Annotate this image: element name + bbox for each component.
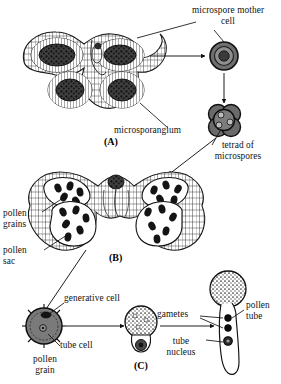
pollen-sac-lower-right (136, 202, 182, 246)
panel-label-b: (B) (109, 252, 122, 263)
gamete-nucleus-1 (225, 315, 232, 322)
label-microspore-mother-cell: microspore mothercell (178, 5, 278, 26)
figure-canvas: microspore mothercell microsporangium (A… (0, 0, 281, 384)
label-microsporangium: microsporangium (114, 125, 181, 136)
pollen-tube-structure (210, 271, 246, 374)
pollen-sac-lower-left (50, 202, 96, 246)
microsporogenesis-diagram (0, 0, 281, 384)
label-pollen-sac: pollensac (3, 245, 49, 266)
label-pollen-grains: pollengrains (3, 208, 49, 229)
microsporangium-lower-right (100, 72, 144, 108)
label-pollen-tube: pollentube (246, 300, 281, 321)
panel-label-c: (C) (134, 360, 148, 371)
label-tetrad-of-microspores: tetrad ofmicrospores (196, 140, 280, 161)
tetrad-of-microspores (209, 105, 241, 137)
label-tube-nucleus: tubenucleus (156, 336, 206, 357)
label-pollen-grain: pollengrain (21, 354, 69, 375)
generative-cell (41, 312, 51, 318)
panel-label-a: (A) (104, 136, 118, 147)
pollen-tube-grain-head (210, 271, 246, 307)
microsporangium-lower-left (48, 72, 92, 108)
panel-b-anther (28, 172, 204, 250)
label-generative-cell: generative cell (64, 293, 120, 304)
microspore-mother-cell (210, 42, 238, 70)
microsporangium-upper-right (96, 39, 144, 71)
microsporangium-upper-left (31, 38, 83, 72)
germinating-pollen-grain (125, 306, 157, 352)
panel-a-anther (23, 32, 166, 108)
leader-mmc-to-cell (214, 30, 224, 42)
label-tube-cell: tube cell (60, 340, 93, 351)
gamete-nucleus-2 (225, 325, 232, 332)
label-gametes: gametes (157, 309, 188, 320)
